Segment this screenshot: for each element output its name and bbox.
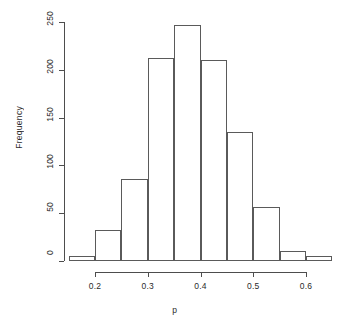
histogram-bar xyxy=(201,60,227,261)
histogram-bar xyxy=(306,256,332,261)
histogram-bars xyxy=(0,0,349,332)
histogram-bar xyxy=(95,230,121,261)
histogram-bar xyxy=(121,179,147,261)
x-tick-label: 0.5 xyxy=(247,281,259,291)
x-tick-label: 0.2 xyxy=(89,281,101,291)
histogram-bar xyxy=(174,25,200,261)
histogram-bar xyxy=(280,251,306,261)
histogram-bar xyxy=(227,132,253,261)
x-axis-title: p xyxy=(0,305,349,315)
x-tick-mark xyxy=(253,272,254,277)
x-tick-label: 0.6 xyxy=(300,281,312,291)
x-tick-mark xyxy=(201,272,202,277)
x-tick-label: 0.3 xyxy=(142,281,154,291)
histogram-bar xyxy=(253,207,279,261)
x-tick-label: 0.4 xyxy=(194,281,206,291)
histogram-bar xyxy=(148,58,174,261)
x-tick-mark xyxy=(306,272,307,277)
histogram-bar xyxy=(69,256,95,261)
x-tick-mark xyxy=(148,272,149,277)
x-tick-mark xyxy=(95,272,96,277)
histogram-plot: 050100150200250 Frequency 0.20.30.40.50.… xyxy=(0,0,349,332)
